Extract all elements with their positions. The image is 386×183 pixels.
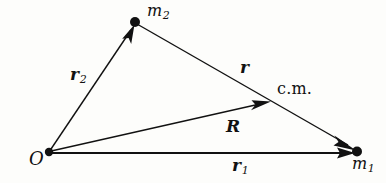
vector-r bbox=[137, 24, 356, 151]
label-mass2: m2 bbox=[147, 3, 170, 21]
label-vector-r2: r2 bbox=[70, 66, 87, 85]
vector-r1 bbox=[49, 148, 355, 159]
label-mass2-base: m bbox=[147, 1, 162, 20]
label-vector-R: R bbox=[226, 118, 240, 135]
label-center-of-mass: c.m. bbox=[277, 81, 312, 97]
label-mass1-subscript: 1 bbox=[368, 162, 375, 175]
label-mass2-subscript: 2 bbox=[163, 9, 170, 22]
label-mass1-base: m bbox=[352, 154, 367, 173]
figure-root: O m2 m1 c.m. r R r1 r2 bbox=[0, 0, 386, 183]
label-vector-r2-subscript: 2 bbox=[80, 73, 87, 86]
label-vector-r1-subscript: 1 bbox=[242, 164, 249, 177]
label-mass1: m1 bbox=[352, 156, 375, 174]
point-origin-dot bbox=[45, 148, 53, 156]
vector-r2-shaft bbox=[49, 30, 131, 152]
vector-r-arrowhead bbox=[334, 136, 357, 151]
label-origin: O bbox=[29, 150, 44, 168]
vector-r2 bbox=[49, 25, 135, 153]
label-vector-r: r bbox=[240, 59, 249, 76]
label-vector-r2-base: r bbox=[70, 64, 79, 84]
point-mass2-dot bbox=[130, 17, 140, 27]
vector-diagram-canvas bbox=[0, 0, 386, 183]
label-vector-r1-base: r bbox=[232, 155, 241, 175]
label-vector-r1: r1 bbox=[232, 157, 249, 176]
vector-r-shaft bbox=[137, 24, 348, 145]
